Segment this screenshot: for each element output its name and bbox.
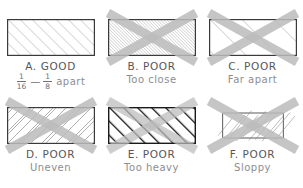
swatch-wrap-a	[7, 19, 95, 56]
caption-f: F. POOR Sloppy	[230, 148, 275, 174]
panel-f: F. POOR Sloppy	[202, 94, 303, 188]
swatch-wrap-d	[7, 107, 95, 144]
caption-d-sub: Uneven	[26, 162, 75, 174]
hatch-rectangle-c	[209, 19, 297, 56]
caption-a-main: A. GOOD	[16, 60, 86, 72]
hatch-rectangle-e	[108, 107, 196, 144]
range-dash: —	[29, 76, 41, 88]
panel-a: A. GOOD 1 16 — 1 8 apart	[0, 0, 101, 94]
fraction-one-eighth: 1 8	[43, 73, 52, 90]
caption-f-main: F. POOR	[230, 148, 275, 160]
caption-a: A. GOOD 1 16 — 1 8 apart	[16, 60, 86, 90]
caption-c: C. POOR Far apart	[228, 60, 277, 86]
hatch-rectangle-b	[108, 19, 196, 56]
panel-c: C. POOR Far apart	[202, 0, 303, 94]
caption-e-sub: Too heavy	[124, 162, 179, 174]
caption-a-spacing: 1 16 — 1 8 apart	[16, 73, 86, 90]
hatch-rectangle-d	[7, 107, 95, 144]
caption-c-sub: Far apart	[228, 74, 277, 86]
swatch-wrap-c	[209, 19, 297, 56]
panel-e: E. POOR Too heavy	[101, 94, 202, 188]
panel-b: B. POOR Too close	[101, 0, 202, 94]
caption-d-main: D. POOR	[26, 148, 75, 160]
panel-d: D. POOR Uneven	[0, 94, 101, 188]
swatch-wrap-f	[209, 107, 297, 144]
hatch-rectangle-a	[7, 19, 95, 56]
swatch-wrap-e	[108, 107, 196, 144]
hatch-rectangle-f	[209, 107, 297, 144]
caption-c-main: C. POOR	[228, 60, 277, 72]
caption-a-apart: apart	[54, 76, 85, 88]
fraction-one-sixteenth: 1 16	[16, 73, 28, 90]
caption-e: E. POOR Too heavy	[124, 148, 179, 174]
panel-grid: A. GOOD 1 16 — 1 8 apart	[0, 0, 303, 187]
section-lining-figure: A. GOOD 1 16 — 1 8 apart	[0, 0, 303, 187]
caption-b: B. POOR Too close	[126, 60, 176, 86]
caption-e-main: E. POOR	[124, 148, 179, 160]
caption-d: D. POOR Uneven	[26, 148, 75, 174]
caption-b-main: B. POOR	[126, 60, 176, 72]
caption-f-sub: Sloppy	[230, 162, 275, 174]
caption-b-sub: Too close	[126, 74, 176, 86]
swatch-wrap-b	[108, 19, 196, 56]
